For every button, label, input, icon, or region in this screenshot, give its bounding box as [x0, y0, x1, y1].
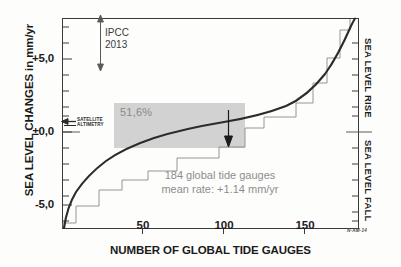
- y-tick-label-minus5: -5,0: [12, 198, 54, 210]
- x-tick-label-50: 50: [126, 219, 160, 231]
- ipcc-annotation: IPCC 2013: [105, 27, 129, 50]
- center-note-line1: 184 global tide gauges: [140, 168, 300, 182]
- center-note: 184 global tide gauges mean rate: +1.14 …: [140, 168, 300, 196]
- x-tick-label-100: 100: [207, 219, 241, 231]
- sea-level-chart-figure: SEA LEVEL CHANGES in mm/yr NUMBER OF GLO…: [0, 0, 401, 267]
- figure-signature: N-AM-14: [347, 228, 367, 233]
- chart-canvas: [0, 0, 401, 267]
- ipcc-annotation-line1: IPCC: [105, 27, 129, 39]
- y-tick-label-plus5: +5,0: [12, 52, 54, 64]
- right-caption-sea-level-fall: SEA LEVEL FALL: [363, 140, 374, 221]
- y-tick-label-zero: ±0,0: [12, 125, 54, 137]
- center-note-line2: mean rate: +1.14 mm/yr: [140, 182, 300, 196]
- ipcc-double-arrow: [98, 15, 104, 71]
- satellite-altimetry-label-line2: ALTIMETRY: [77, 122, 104, 127]
- x-axis-title: NUMBER OF GLOBAL TIDE GAUGES: [62, 244, 359, 256]
- right-caption-sea-level-rise: SEA LEVEL RISE: [363, 38, 374, 118]
- ipcc-annotation-line2: 2013: [105, 39, 129, 51]
- satellite-altimetry-marker: [62, 119, 77, 126]
- x-tick-label-150: 150: [288, 219, 322, 231]
- percent-label: 51,6%: [120, 106, 152, 118]
- y-axis-title: SEA LEVEL CHANGES in mm/yr: [23, 15, 35, 205]
